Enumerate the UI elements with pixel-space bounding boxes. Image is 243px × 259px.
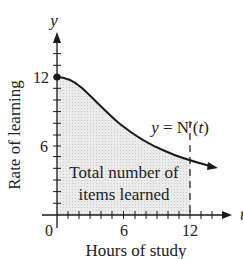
area-label-line1: Total number of <box>69 163 179 182</box>
curve-label: y = N′(t) <box>149 118 209 137</box>
y-axis-symbol: y <box>48 11 58 30</box>
y-axis-arrow-icon <box>53 32 61 43</box>
x-axis-title: Hours of study <box>85 241 187 259</box>
x-tick-label-12: 12 <box>182 222 198 239</box>
origin-label: 0 <box>45 222 53 239</box>
x-axis-arrow-icon <box>222 211 232 219</box>
y-tick-label-6: 6 <box>40 138 48 155</box>
y-tick-label-12: 12 <box>33 69 49 86</box>
y-axis-title: Rate of learning <box>5 80 24 190</box>
curve-arrow-icon <box>207 162 218 170</box>
learning-rate-chart: y t 0 6 12 6 12 Hours of study Rate of l… <box>0 0 243 259</box>
x-tick-label-6: 6 <box>120 222 128 239</box>
area-label-line2: items learned <box>78 185 170 204</box>
start-point-marker <box>53 73 60 80</box>
x-axis-symbol: t <box>240 205 243 224</box>
